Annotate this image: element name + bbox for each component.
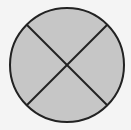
quartered-circle-diagram [0, 0, 131, 130]
